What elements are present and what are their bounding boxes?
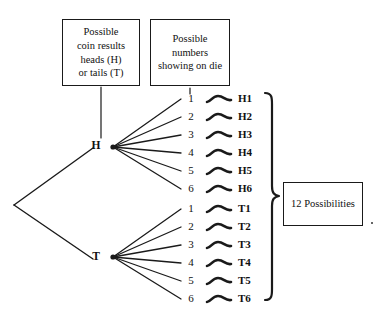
fan-h xyxy=(113,99,181,189)
coin-results-box: Possible coin results heads (H) or tails… xyxy=(62,19,140,86)
grouping-brace xyxy=(265,93,279,300)
die-number: 2 xyxy=(184,220,198,232)
outcome-label: T2 xyxy=(238,220,264,232)
coin-box-line-2: coin results xyxy=(77,39,125,53)
squiggle-connector-icon xyxy=(205,164,233,178)
squiggle-connector-icon xyxy=(205,238,233,252)
die-number: 6 xyxy=(184,182,198,194)
die-number: 1 xyxy=(184,92,198,104)
node-dot-t xyxy=(110,254,115,259)
outcome-label: T1 xyxy=(238,202,264,214)
node-label-heads: H xyxy=(88,139,104,151)
squiggle-connector-icon xyxy=(205,274,233,288)
probability-tree-diagram: Possible coin results heads (H) or tails… xyxy=(0,0,384,332)
die-box-line-1: Possible xyxy=(172,32,207,46)
outcome-label: H4 xyxy=(238,146,264,158)
squiggle-connector-icon xyxy=(205,110,233,124)
die-number: 4 xyxy=(184,146,198,158)
outcome-label: H1 xyxy=(238,92,264,104)
edge-root-to-h xyxy=(14,148,93,205)
squiggle-connector-icon xyxy=(205,202,233,216)
node-dot-h xyxy=(110,144,115,149)
die-number: 2 xyxy=(184,110,198,122)
coin-box-line-3: heads (H) xyxy=(80,53,121,67)
coin-box-line-1: Possible xyxy=(83,25,118,39)
die-number: 3 xyxy=(184,238,198,250)
outcome-label: H6 xyxy=(238,182,264,194)
die-number: 3 xyxy=(184,128,198,140)
die-number: 5 xyxy=(184,274,198,286)
node-label-tails: T xyxy=(88,250,104,262)
coin-box-line-4: or tails (T) xyxy=(79,66,124,80)
outcome-label: H3 xyxy=(238,128,264,140)
outcome-label: T6 xyxy=(238,292,264,304)
die-number: 5 xyxy=(184,164,198,176)
die-box-line-3: showing on die xyxy=(158,59,222,73)
die-numbers-box: Possible numbers showing on die xyxy=(150,19,230,86)
trailing-dot xyxy=(371,222,373,224)
possibilities-label: 12 Possibilities xyxy=(291,197,355,211)
outcome-label: T5 xyxy=(238,274,264,286)
die-number: 1 xyxy=(184,202,198,214)
edge-root-to-t xyxy=(14,205,93,259)
squiggle-connector-icon xyxy=(205,128,233,142)
fan-t xyxy=(113,209,181,299)
squiggle-connector-icon xyxy=(205,220,233,234)
outcome-label: H2 xyxy=(238,110,264,122)
squiggle-connector-icon xyxy=(205,146,233,160)
squiggle-connector-icon xyxy=(205,256,233,270)
outcome-label: T3 xyxy=(238,238,264,250)
die-box-line-2: numbers xyxy=(172,46,208,60)
possibilities-box: 12 Possibilities xyxy=(283,182,363,226)
die-number: 4 xyxy=(184,256,198,268)
squiggle-connector-icon xyxy=(205,182,233,196)
squiggle-connector-icon xyxy=(205,292,233,306)
outcome-label: T4 xyxy=(238,256,264,268)
die-number: 6 xyxy=(184,292,198,304)
squiggle-connector-icon xyxy=(205,92,233,106)
outcome-label: H5 xyxy=(238,164,264,176)
